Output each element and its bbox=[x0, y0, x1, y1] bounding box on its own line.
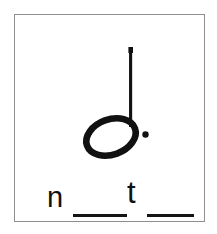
augmentation-dot-icon bbox=[142, 131, 148, 137]
card-frame: n t bbox=[14, 14, 205, 222]
note-head bbox=[81, 112, 141, 163]
word-letter-n: n bbox=[47, 183, 63, 212]
word-letter-t: t bbox=[127, 177, 136, 208]
worksheet-card-canvas: n t bbox=[0, 0, 217, 234]
dotted-half-note-figure bbox=[75, 41, 161, 163]
word-blank-2[interactable] bbox=[147, 214, 194, 217]
note-stem-top bbox=[128, 47, 133, 53]
word-blank-1[interactable] bbox=[73, 214, 127, 217]
word-puzzle: n t bbox=[45, 177, 197, 221]
dotted-half-note-icon bbox=[75, 41, 161, 163]
note-head-group bbox=[81, 112, 141, 163]
